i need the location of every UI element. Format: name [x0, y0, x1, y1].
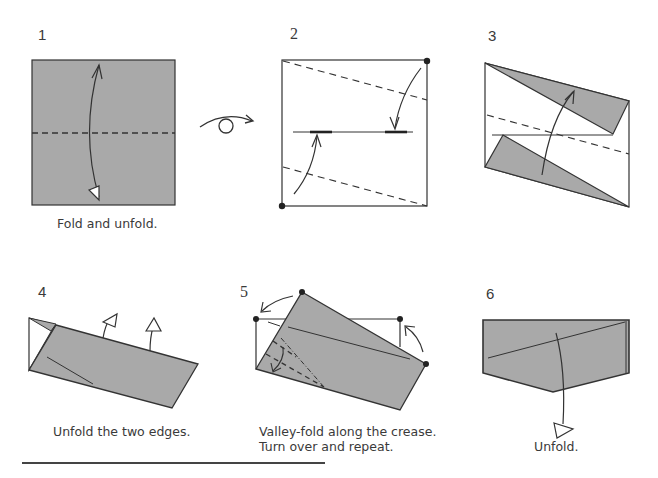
corner-dot-top-right [424, 58, 430, 64]
corner-dot-bottom-left [279, 203, 285, 209]
fold-arrow-left [262, 296, 293, 311]
paper-body [29, 325, 198, 408]
paper-body [256, 292, 426, 410]
corner-dot [423, 361, 429, 367]
paper-body [483, 320, 629, 392]
step-4-diagram [29, 314, 198, 408]
step-3-diagram [485, 63, 629, 207]
step-6-diagram [483, 320, 629, 438]
footer-rule [22, 462, 325, 464]
corner-dot [397, 316, 403, 322]
fold-arrow-right [406, 327, 423, 352]
diagram-canvas [0, 0, 658, 478]
step-2-diagram [279, 58, 430, 209]
turn-over-icon [200, 115, 253, 133]
step-5-diagram [253, 289, 429, 410]
arrow-head-unfold-icon [146, 318, 161, 331]
crease-line-hidden [268, 322, 280, 326]
arrow-head-unfold-icon [103, 314, 117, 327]
corner-dot [299, 289, 305, 295]
corner-dot [253, 316, 259, 322]
arrow-head-unfold-icon [554, 423, 573, 438]
step-1-diagram [32, 60, 175, 205]
